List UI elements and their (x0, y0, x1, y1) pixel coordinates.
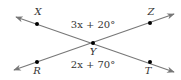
label-t: T (145, 65, 153, 76)
label-r: R (32, 65, 41, 76)
point-z (148, 21, 152, 25)
angle-expression-bottom: 2x + 70° (71, 59, 115, 70)
point-t (148, 60, 152, 64)
label-z: Z (147, 6, 156, 17)
angle-expression-top: 3x + 20° (71, 19, 115, 30)
intersecting-lines-diagram: X Z Y R T 3x + 20° 2x + 70° (0, 0, 181, 80)
point-x (35, 22, 39, 26)
label-y: Y (90, 46, 98, 57)
point-y (91, 41, 95, 45)
label-x: X (33, 6, 42, 17)
point-r (35, 60, 39, 64)
